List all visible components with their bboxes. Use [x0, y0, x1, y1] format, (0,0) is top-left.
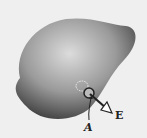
pear-surface-diagram	[0, 0, 147, 138]
area-label: A	[84, 122, 93, 133]
field-label: E	[115, 110, 123, 121]
closed-surface-body	[16, 18, 136, 119]
